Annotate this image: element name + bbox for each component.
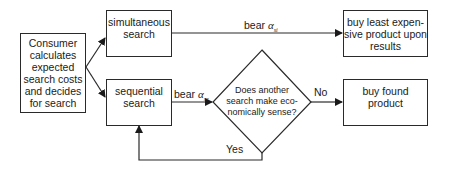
sequential-line-1: sequential [115,85,163,97]
simultaneous-search-node: simultaneous search [106,10,172,57]
simultaneous-line-2: search [108,28,170,40]
buy-least-line-3: results [344,40,427,52]
consumer-line-1: Consumer [24,37,83,49]
consumer-line-6: for search [24,97,83,109]
arrow-consumer-to-sequential [86,67,105,97]
buy-least-line-2: sive product upon [344,28,427,40]
alpha-subscript: si [274,27,278,33]
simultaneous-line-1: simultaneous [108,16,170,28]
buy-least-line-1: buy least expen- [344,16,427,28]
decision-line-3: nomically sense? [218,107,306,118]
consumer-line-3: expected [24,61,83,73]
consumer-line-4: search costs [24,73,83,85]
decision-line-1: Does another [218,85,306,96]
edge-label-simultaneous-cost: bear αsi [244,19,278,33]
sequential-line-2: search [115,97,163,109]
edge-label-no: No [314,86,327,98]
edge-label-sequential-cost: bear αse [174,88,209,102]
decision-line-2: search make eco- [218,96,306,107]
consumer-line-2: calculates [24,49,83,61]
bear-text: bear [244,19,265,31]
edge-label-yes: Yes [226,143,243,155]
decision-text: Does another search make eco- nomically … [218,85,306,118]
sequential-search-node: sequential search [106,79,172,126]
buy-least-expensive-node: buy least expen- sive product upon resul… [343,10,428,57]
buy-found-product-node: buy found product [343,79,428,126]
consumer-line-5: and decides [24,85,83,97]
consumer-node: Consumer calculates expected search cost… [20,33,86,113]
buy-found-line-1: buy found product [344,85,427,109]
alpha-subscript: se [204,96,209,102]
arrow-consumer-to-simultaneous [86,38,105,67]
bear-text: bear [174,88,195,100]
